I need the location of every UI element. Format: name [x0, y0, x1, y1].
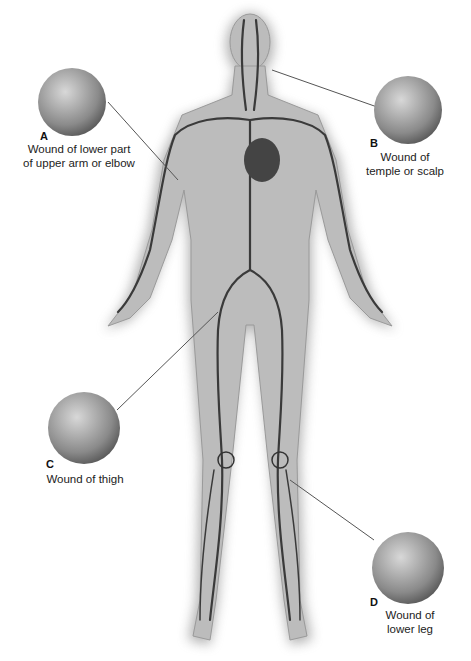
body-diagram	[0, 0, 471, 661]
callout-letter-b: B	[370, 137, 378, 149]
callout-label-b: Wound of temple or scalp	[350, 150, 460, 178]
callout-letter-c: C	[46, 458, 54, 470]
callout-image-d	[372, 532, 444, 604]
callout-image-c	[48, 392, 120, 464]
callout-label-c: Wound of thigh	[30, 472, 140, 486]
callout-label-d: Wound of lower leg	[360, 608, 460, 636]
callout-label-a: Wound of lower part of upper arm or elbo…	[14, 142, 144, 170]
callout-image-b	[374, 76, 442, 144]
callout-letter-d: D	[370, 596, 378, 608]
callout-image-a	[38, 68, 106, 136]
heart-icon	[244, 138, 280, 182]
callout-letter-a: A	[40, 130, 48, 142]
